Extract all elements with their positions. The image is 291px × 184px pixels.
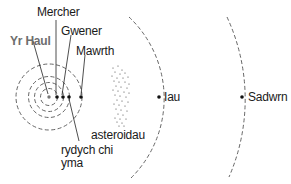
planet-label-gwener: Gwener [61, 25, 102, 38]
planet-mercher-icon [55, 95, 59, 99]
asteroid-belt [111, 65, 129, 126]
planet-label-iau: Iau [164, 91, 180, 104]
planet-label-sadwrn: Sadwrn [248, 91, 288, 104]
sun-label: Yr Haul [10, 35, 51, 48]
planet-sadwrn-icon [240, 95, 244, 99]
sun-icon [47, 95, 50, 98]
leader-yr-haul [33, 41, 48, 94]
planet-label-mercher: Mercher [37, 6, 80, 19]
planet-gwener-icon [61, 95, 65, 99]
leader-mawrth [81, 55, 85, 95]
planet-label-earth: rydych chi yma [61, 144, 113, 170]
planet-iau-icon [157, 95, 161, 99]
leader-earth [69, 99, 79, 141]
asteroid-belt-label: asteroidau [91, 129, 145, 142]
planet-mawrth-icon [79, 95, 83, 99]
planet-label-mawrth: Mawrth [76, 45, 114, 58]
planet-earth-icon [67, 95, 71, 99]
leader-gwener [62, 35, 71, 95]
